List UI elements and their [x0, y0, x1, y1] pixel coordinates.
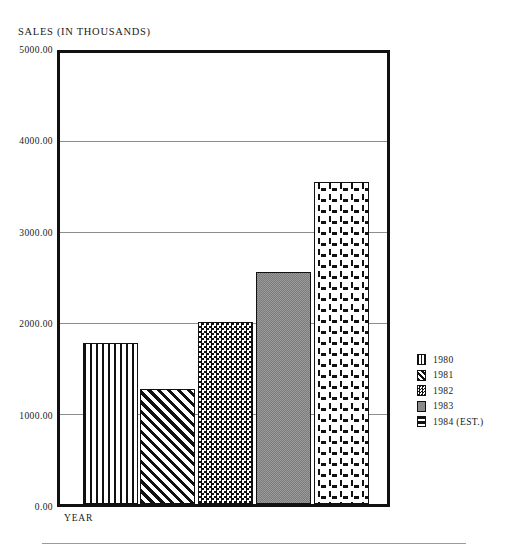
y-tick-label-1000: 1000.00	[19, 411, 53, 421]
y-axis: 5000.00 4000.00 3000.00 2000.00 1000.00 …	[0, 50, 53, 507]
y-tick-label-3000: 3000.00	[19, 228, 53, 238]
legend-swatch-icon-1982	[417, 385, 426, 396]
legend-label-1984-est: 1984 (EST.)	[433, 417, 484, 427]
legend-swatch-icon-1981	[417, 370, 426, 381]
legend-label-1982: 1982	[433, 386, 454, 396]
gridline-4000	[60, 141, 387, 142]
y-tick-label-5000: 5000.00	[19, 45, 53, 55]
legend-label-1980: 1980	[433, 355, 454, 365]
legend-item-1980[interactable]: 1980	[417, 352, 484, 368]
legend-item-1984-est[interactable]: 1984 (EST.)	[417, 414, 484, 430]
legend-item-1983[interactable]: 1983	[417, 399, 484, 415]
y-tick-label-0: 0.00	[35, 502, 53, 512]
bar-1984-est[interactable]	[314, 182, 369, 504]
bar-1983[interactable]	[256, 272, 311, 504]
bar-1982[interactable]	[198, 322, 253, 504]
bar-1981[interactable]	[140, 389, 195, 504]
legend: 1980 1981 1982 1983 1984 (EST.)	[417, 352, 484, 430]
legend-item-1981[interactable]: 1981	[417, 368, 484, 384]
y-tick-label-4000: 4000.00	[19, 136, 53, 146]
plot-inner	[60, 53, 387, 504]
plot-area	[57, 50, 390, 507]
legend-swatch-icon-1980	[417, 354, 426, 365]
legend-item-1982[interactable]: 1982	[417, 383, 484, 399]
legend-label-1983: 1983	[433, 401, 454, 411]
bar-1980[interactable]	[83, 343, 138, 504]
x-axis-label: YEAR	[64, 513, 93, 523]
legend-swatch-icon-1983	[417, 401, 426, 412]
legend-swatch-icon-1984-est	[417, 416, 426, 427]
footer-divider	[42, 543, 466, 544]
legend-label-1981: 1981	[433, 370, 454, 380]
chart-title: SALES (IN THOUSANDS)	[18, 26, 151, 37]
y-tick-label-2000: 2000.00	[19, 319, 53, 329]
